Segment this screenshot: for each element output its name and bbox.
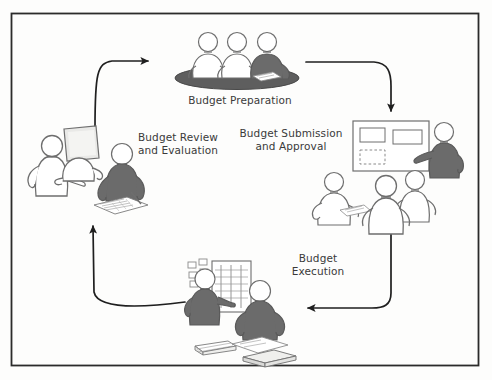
stage-label-budget-submission-and-approval: Budget Submission and Approval: [235, 127, 347, 152]
budget-cycle-illustration: [0, 0, 492, 380]
diagram-canvas: Budget Preparation Budget Submission and…: [0, 0, 492, 380]
presentation-board: [353, 121, 429, 171]
stage-label-budget-review-and-evaluation: Budget Review and Evaluation: [126, 131, 230, 156]
stage-label-budget-preparation: Budget Preparation: [160, 94, 320, 107]
stage-label-budget-execution: Budget Execution: [272, 252, 364, 277]
